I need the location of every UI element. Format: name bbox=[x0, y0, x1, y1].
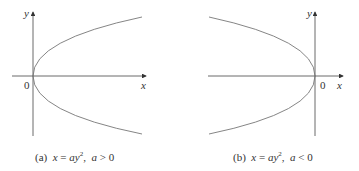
panel-b-y-label: y bbox=[306, 7, 312, 19]
caption-equals: = bbox=[60, 151, 66, 163]
panel-a-x-label: x bbox=[140, 79, 146, 91]
caption-sep: , bbox=[83, 151, 86, 163]
caption-sep: , bbox=[282, 151, 285, 163]
panel-b-x-label: x bbox=[336, 79, 342, 91]
panel-b-parabola bbox=[209, 17, 315, 134]
caption-lhs: x bbox=[251, 151, 256, 163]
panel-a-origin-label: 0 bbox=[24, 79, 30, 91]
figure-canvas: y x 0 y x 0 bbox=[0, 0, 359, 171]
caption-cond-val: 0 bbox=[307, 151, 313, 163]
panel-b-plot: y x 0 bbox=[208, 7, 343, 136]
panel-a-y-label: y bbox=[23, 7, 29, 19]
caption-cond-var: a bbox=[290, 151, 296, 163]
caption-tag: (b) bbox=[233, 151, 246, 163]
panel-a-caption: (a) x = ay2, a > 0 bbox=[35, 150, 114, 163]
panel-a-parabola bbox=[33, 17, 142, 134]
caption-cond-op: > bbox=[100, 151, 106, 163]
panel-b-origin-label: 0 bbox=[320, 79, 326, 91]
caption-lhs: x bbox=[53, 151, 58, 163]
caption-equals: = bbox=[259, 151, 265, 163]
caption-cond-val: 0 bbox=[109, 151, 115, 163]
caption-cond-var: a bbox=[91, 151, 97, 163]
panel-b-caption: (b) x = ay2, a < 0 bbox=[233, 150, 313, 163]
caption-cond-op: < bbox=[298, 151, 304, 163]
caption-rhs: ay bbox=[69, 151, 79, 163]
caption-tag: (a) bbox=[35, 151, 47, 163]
panel-a-plot: y x 0 bbox=[12, 7, 146, 136]
caption-rhs: ay bbox=[268, 151, 278, 163]
